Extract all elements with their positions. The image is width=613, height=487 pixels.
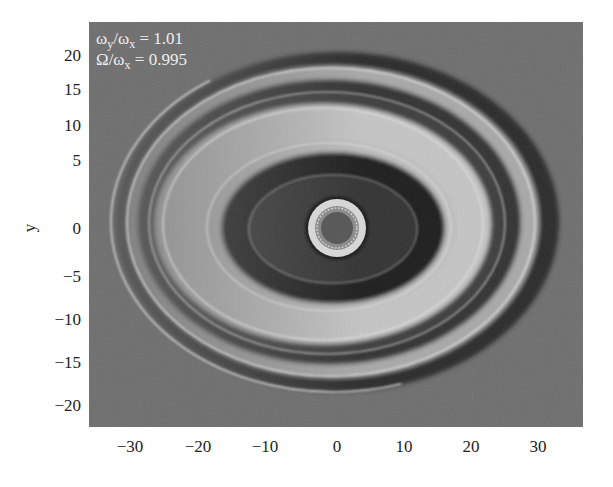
x-tick: −30 — [117, 437, 144, 457]
y-tick: −10 — [54, 311, 81, 328]
y-tick: 5 — [73, 152, 82, 169]
y-tick: 0 — [73, 220, 82, 237]
y-tick: 20 — [64, 47, 81, 64]
x-tick: 0 — [333, 437, 342, 457]
x-tick: 20 — [463, 437, 480, 457]
x-tick: 10 — [396, 437, 413, 457]
y-tick: 10 — [64, 117, 81, 134]
density-plot — [89, 22, 583, 427]
x-tick: −10 — [252, 437, 279, 457]
y-tick: −20 — [54, 397, 81, 414]
y-axis-label: y — [20, 224, 40, 233]
x-tick: −20 — [185, 437, 212, 457]
annotation-omega-ratio: ωy/ωx = 1.01 — [96, 29, 183, 52]
y-tick: 15 — [64, 81, 81, 98]
y-tick: −5 — [63, 268, 81, 285]
annotation-rotation-ratio: Ω/ωx = 0.995 — [96, 50, 187, 73]
x-tick: 30 — [530, 437, 547, 457]
y-tick: −15 — [54, 354, 81, 371]
